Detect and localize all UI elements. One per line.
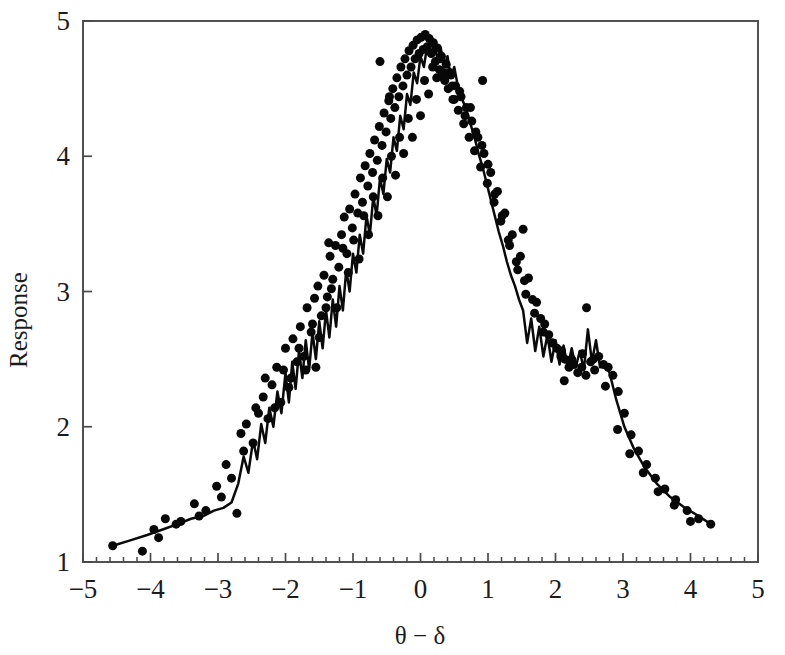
data-point bbox=[319, 271, 328, 280]
data-point bbox=[364, 230, 373, 239]
data-point bbox=[303, 303, 312, 312]
data-point bbox=[577, 363, 586, 372]
data-point bbox=[311, 363, 320, 372]
y-axis-title: Response bbox=[5, 272, 32, 368]
data-point bbox=[399, 149, 408, 158]
data-point bbox=[694, 514, 703, 523]
response-scatter-chart: −5−4−3−2−1012345 12345 θ − δ Response bbox=[0, 0, 785, 655]
data-point bbox=[368, 168, 377, 177]
data-point bbox=[324, 238, 333, 247]
y-tick-label: 1 bbox=[57, 547, 71, 577]
data-point bbox=[532, 298, 541, 307]
data-point bbox=[301, 365, 310, 374]
x-tick-label: −4 bbox=[136, 574, 165, 604]
data-point bbox=[358, 198, 367, 207]
data-point bbox=[390, 103, 399, 112]
data-point bbox=[490, 198, 499, 207]
data-point bbox=[567, 355, 576, 364]
data-point bbox=[440, 76, 449, 85]
data-point bbox=[498, 211, 507, 220]
data-point bbox=[382, 127, 391, 136]
data-point bbox=[212, 482, 221, 491]
data-point bbox=[548, 338, 557, 347]
data-point bbox=[627, 430, 636, 439]
data-point bbox=[373, 156, 382, 165]
data-point bbox=[279, 365, 288, 374]
data-point bbox=[299, 352, 308, 361]
data-point bbox=[477, 141, 486, 150]
data-point bbox=[670, 501, 679, 510]
data-point bbox=[486, 168, 495, 177]
data-point bbox=[327, 284, 336, 293]
data-point bbox=[161, 514, 170, 523]
x-tick-label: −1 bbox=[339, 574, 368, 604]
data-point bbox=[296, 322, 305, 331]
data-point bbox=[433, 44, 442, 53]
data-point bbox=[259, 393, 268, 402]
data-point bbox=[108, 541, 117, 550]
data-point bbox=[428, 62, 437, 71]
data-point bbox=[373, 211, 382, 220]
data-point bbox=[361, 161, 370, 170]
data-point bbox=[317, 311, 326, 320]
data-point bbox=[461, 111, 470, 120]
x-tick-label: 0 bbox=[414, 574, 428, 604]
data-point bbox=[400, 54, 409, 63]
data-point bbox=[190, 499, 199, 508]
data-point bbox=[582, 303, 591, 312]
data-point bbox=[483, 179, 492, 188]
data-point bbox=[195, 512, 204, 521]
x-tick-label: 3 bbox=[616, 574, 630, 604]
data-point bbox=[337, 230, 346, 239]
data-point bbox=[455, 87, 464, 96]
data-point bbox=[479, 149, 488, 158]
data-point bbox=[345, 205, 354, 214]
data-point bbox=[706, 520, 715, 529]
data-point bbox=[326, 252, 335, 261]
data-point bbox=[172, 520, 181, 529]
x-axis-major-ticks bbox=[83, 553, 758, 562]
data-point bbox=[232, 509, 241, 518]
data-point bbox=[416, 111, 425, 120]
data-point bbox=[404, 114, 413, 123]
data-point bbox=[359, 211, 368, 220]
data-point bbox=[315, 333, 324, 342]
data-point bbox=[138, 547, 147, 556]
data-point bbox=[284, 383, 293, 392]
data-point bbox=[686, 517, 695, 526]
data-point bbox=[369, 192, 378, 201]
data-point bbox=[370, 136, 379, 145]
x-tick-label: 4 bbox=[684, 574, 698, 604]
data-point bbox=[261, 374, 270, 383]
data-point bbox=[332, 303, 341, 312]
y-tick-label: 3 bbox=[57, 277, 71, 307]
data-point bbox=[578, 349, 587, 358]
data-point bbox=[217, 493, 226, 502]
figure-container: −5−4−3−2−1012345 12345 θ − δ Response bbox=[0, 0, 785, 655]
data-point bbox=[251, 403, 260, 412]
data-point bbox=[642, 460, 651, 469]
data-point bbox=[355, 255, 364, 264]
data-point bbox=[363, 182, 372, 191]
data-point bbox=[516, 252, 525, 261]
data-point bbox=[288, 334, 297, 343]
data-point bbox=[450, 95, 459, 104]
data-point bbox=[557, 347, 566, 356]
data-point bbox=[530, 309, 539, 318]
x-tick-label: −2 bbox=[271, 574, 300, 604]
data-point bbox=[396, 62, 405, 71]
data-point bbox=[436, 54, 445, 63]
data-point bbox=[263, 414, 272, 423]
x-tick-label: −3 bbox=[204, 574, 233, 604]
data-point bbox=[604, 363, 613, 372]
data-point bbox=[376, 57, 385, 66]
data-point bbox=[340, 213, 349, 222]
x-tick-label: 5 bbox=[751, 574, 765, 604]
data-point bbox=[639, 468, 648, 477]
data-point bbox=[521, 290, 530, 299]
data-point bbox=[295, 344, 304, 353]
data-point bbox=[378, 141, 387, 150]
data-point bbox=[398, 81, 407, 90]
data-point bbox=[420, 76, 429, 85]
data-point bbox=[268, 380, 277, 389]
